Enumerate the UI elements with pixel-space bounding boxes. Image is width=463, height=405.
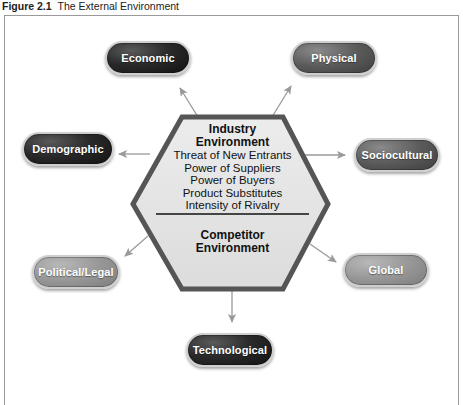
segment-label: Economic bbox=[121, 52, 174, 64]
arrow-economic bbox=[180, 88, 198, 117]
segment-physical: Physical bbox=[291, 41, 377, 75]
segment-label: Global bbox=[369, 264, 404, 276]
segment-label: Demographic bbox=[32, 143, 103, 155]
industry-item: Intensity of Rivalry bbox=[150, 199, 315, 212]
segment-sociocultural: Sociocultural bbox=[354, 138, 440, 172]
segment-label: Sociocultural bbox=[362, 149, 433, 161]
segment-global: Global bbox=[343, 253, 429, 287]
segment-label: Political/Legal bbox=[38, 266, 113, 278]
industry-title-2: Environment bbox=[150, 136, 315, 149]
segment-economic: Economic bbox=[105, 41, 191, 75]
arrow-physical bbox=[272, 86, 291, 117]
industry-environment-block: Industry Environment Threat of New Entra… bbox=[150, 123, 315, 212]
industry-item: Product Substitutes bbox=[150, 187, 315, 200]
segment-technological: Technological bbox=[186, 333, 274, 367]
segment-label: Physical bbox=[311, 52, 356, 64]
segment-label: Technological bbox=[193, 344, 267, 356]
competitor-title-2: Environment bbox=[150, 242, 315, 255]
industry-item: Power of Suppliers bbox=[150, 162, 315, 175]
segment-demographic: Demographic bbox=[22, 132, 114, 166]
industry-item: Power of Buyers bbox=[150, 174, 315, 187]
arrow-political-legal bbox=[125, 236, 148, 256]
competitor-environment-block: Competitor Environment bbox=[150, 229, 315, 255]
industry-item: Threat of New Entrants bbox=[150, 149, 315, 162]
segment-political-legal: Political/Legal bbox=[32, 255, 120, 289]
